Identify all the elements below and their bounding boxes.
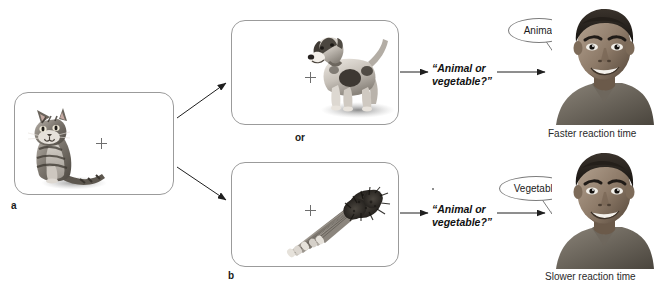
- arrow-cue-to-dog: [177, 83, 226, 118]
- prompt-text-top: “Animal or vegetable?”: [432, 62, 492, 87]
- figure-root: a: [0, 0, 662, 294]
- portrait-photo-bottom: [552, 146, 656, 269]
- prompt-top-line2: vegetable?”: [432, 75, 492, 88]
- prompt-top-line1: “Animal or: [432, 62, 492, 75]
- print-speck: [432, 188, 434, 190]
- arrow-cue-to-vegetable: [177, 167, 226, 200]
- caption-slower-reaction-time: Slower reaction time: [545, 271, 636, 282]
- prompt-bottom-line2: vegetable?”: [432, 216, 492, 229]
- speech-bubble-animal-label: Animal: [524, 25, 555, 36]
- prompt-text-bottom: “Animal or vegetable?”: [432, 203, 492, 228]
- caption-faster-reaction-time: Faster reaction time: [548, 128, 636, 139]
- prompt-bottom-line1: “Animal or: [432, 203, 492, 216]
- portrait-photo-top: [552, 2, 656, 125]
